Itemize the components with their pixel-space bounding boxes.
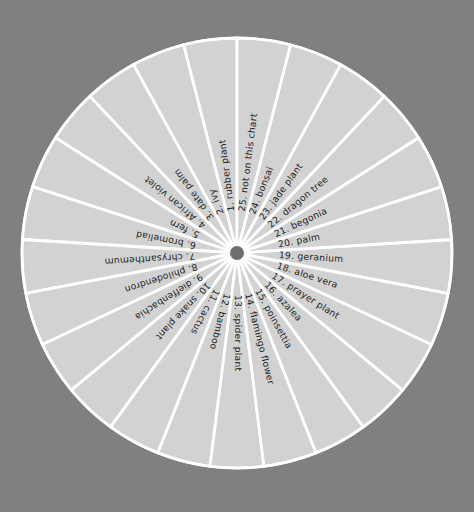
pie-chart: 1. rubber plant2. ivy3. date palm4. Afri… — [0, 0, 474, 512]
chart-canvas: 1. rubber plant2. ivy3. date palm4. Afri… — [0, 0, 474, 512]
pie-center-hub — [230, 246, 244, 260]
pie-slice-label: 13. spider plant — [233, 295, 244, 371]
